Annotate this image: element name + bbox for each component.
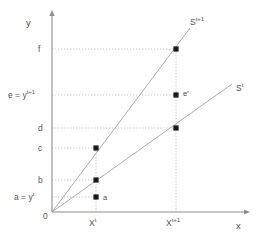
y-tick-a: a = yt — [14, 193, 34, 202]
point-f — [173, 46, 178, 51]
line-label-s-t-plus-1: St+1 — [190, 18, 204, 27]
data-point-markers — [93, 46, 178, 199]
y-tick-e-sup: t+1 — [27, 89, 36, 95]
line-label-s-t-sup: t — [242, 82, 244, 88]
x-tick-xt-sup: t — [95, 217, 97, 223]
plot-svg — [0, 0, 258, 240]
y-tick-f: f — [38, 45, 40, 54]
line-label-s-t-plus-1-sup: t+1 — [196, 16, 205, 22]
line-label-s-t: St — [236, 84, 243, 93]
y-tick-c: c — [38, 144, 42, 153]
y-axis-label: y — [26, 18, 31, 28]
point-label-e-prime: e′ — [183, 90, 189, 98]
line-s-t-plus-1 — [52, 28, 190, 212]
y-tick-e-text: e = y — [8, 90, 27, 100]
point-b — [93, 177, 98, 182]
x-axis-arrow — [244, 209, 250, 214]
point-a — [93, 194, 98, 199]
point-e-prime — [173, 92, 178, 97]
y-tick-a-sup: t — [33, 191, 35, 197]
y-tick-a-text: a = y — [14, 192, 33, 202]
origin-label: 0 — [43, 212, 48, 221]
point-c — [93, 145, 98, 150]
x-axis-label: x — [236, 221, 241, 231]
point-d — [173, 125, 178, 130]
x-tick-xt1: Xt+1 — [166, 219, 180, 228]
x-tick-xt1-sup: t+1 — [172, 217, 181, 223]
diagram-canvas: y x 0 f e = yt+1 d c b a = yt Xt Xt+1 St… — [0, 0, 258, 240]
y-tick-b: b — [38, 176, 43, 185]
point-label-a: a — [103, 194, 107, 202]
x-tick-xt: Xt — [89, 219, 96, 228]
vertical-guides — [96, 49, 176, 212]
y-axis-arrow — [49, 10, 54, 16]
y-tick-d: d — [38, 124, 43, 133]
y-tick-e: e = yt+1 — [8, 91, 35, 100]
